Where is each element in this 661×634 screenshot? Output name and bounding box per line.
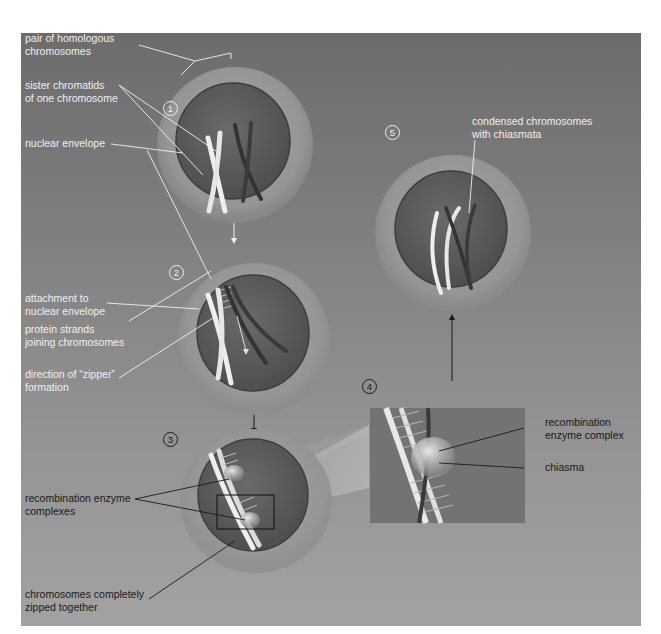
label-zipped-together: chromosomes completely zipped together [25, 588, 144, 614]
label-protein-strands: protein strands joining chromosomes [25, 323, 124, 349]
label-zipper-direction: direction of “zipper” formation [25, 368, 115, 394]
label-homologous-pair: pair of homologous chromosomes [25, 33, 114, 58]
label-recombination-complex: recombination enzyme complex [545, 416, 624, 442]
label-condensed-chromosomes: condensed chromosomes with chiasmata [472, 115, 592, 141]
cell-stage-1 [157, 67, 313, 223]
label-nuclear-envelope: nuclear envelope [25, 137, 105, 150]
label-recombination-complexes: recombination enzyme complexes [25, 492, 131, 518]
step-number-4: 4 [362, 379, 377, 394]
diagram-panel: 1 2 3 4 5 pair of homologous chromosomes… [21, 33, 641, 626]
label-chiasma: chiasma [545, 461, 584, 474]
cell-stage-3 [180, 429, 332, 573]
label-sister-chromatids: sister chromatids of one chromosome [25, 79, 118, 105]
step-number-3: 3 [163, 432, 178, 447]
step-number-5: 5 [385, 125, 400, 140]
cell-stage-5 [375, 155, 531, 311]
step-number-2: 2 [169, 265, 184, 280]
inset-stage-4 [370, 408, 525, 523]
cell-stage-2 [178, 263, 330, 415]
label-attachment: attachment to nuclear envelope [25, 292, 105, 318]
step-number-1: 1 [163, 101, 178, 116]
